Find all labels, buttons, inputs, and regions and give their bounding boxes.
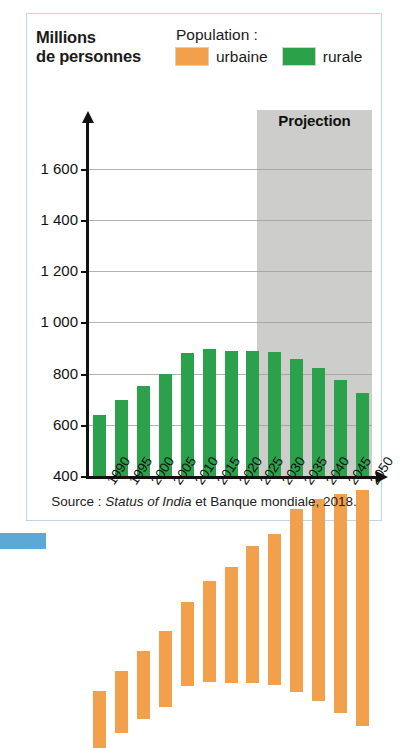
source-caption: Source : Status of India et Banque mondi… xyxy=(27,494,381,509)
chart-figure: Millions de personnes Population : urbai… xyxy=(26,13,382,521)
y-axis-tick-label: 1 600 xyxy=(26,160,78,177)
y-axis-tick-label: 600 xyxy=(26,416,78,433)
bar-segment-urbaine[interactable] xyxy=(159,631,172,707)
y-axis-tick-label: 1 200 xyxy=(26,262,78,279)
legend-label-urbaine: urbaine xyxy=(216,48,268,66)
legend-item-urbaine: urbaine xyxy=(175,47,268,66)
y-axis-tick-label: 800 xyxy=(26,365,78,382)
bar-segment-urbaine[interactable] xyxy=(268,534,281,685)
legend-items: urbaine rurale xyxy=(175,47,377,66)
chart-legend: Population : urbaine rurale xyxy=(175,26,377,66)
plot-area: Projection 4006008001 0001 2001 4001 600… xyxy=(88,143,372,476)
bar-series-container xyxy=(88,143,372,476)
bar-segment-urbaine[interactable] xyxy=(290,509,303,692)
y-axis-tick-labels: 4006008001 0001 2001 4001 600 xyxy=(26,143,78,476)
legend-swatch-urbaine-icon xyxy=(175,47,209,66)
bar-segment-urbaine[interactable] xyxy=(181,602,194,687)
legend-swatch-rurale-icon xyxy=(282,47,316,66)
bar-segment-urbaine[interactable] xyxy=(312,499,325,701)
y-axis-tick-label: 1 400 xyxy=(26,211,78,228)
source-prefix: Source : xyxy=(51,494,105,509)
legend-item-rurale: rurale xyxy=(282,47,363,66)
legend-label-rurale: rurale xyxy=(323,48,363,66)
y-axis-tick-label: 1 000 xyxy=(26,313,78,330)
y-axis-arrow-icon xyxy=(82,111,94,123)
legend-title: Population : xyxy=(176,26,377,44)
bar-segment-urbaine[interactable] xyxy=(93,691,106,747)
axis-title-line-2: de personnes xyxy=(36,47,176,66)
page-corner-tab xyxy=(0,533,46,549)
bar-segment-urbaine[interactable] xyxy=(225,567,238,684)
bar-segment-urbaine[interactable] xyxy=(246,546,259,683)
bar-segment-urbaine[interactable] xyxy=(137,651,150,719)
axis-title: Millions de personnes xyxy=(36,28,176,67)
axis-title-line-1: Millions xyxy=(36,28,176,47)
bar-segment-urbaine[interactable] xyxy=(115,671,128,734)
bar-segment-urbaine[interactable] xyxy=(203,581,216,682)
y-axis-tick-label: 400 xyxy=(26,467,78,484)
source-suffix: et Banque mondiale, 2018. xyxy=(192,494,357,509)
bar-segment-rurale[interactable] xyxy=(93,415,106,476)
projection-label: Projection xyxy=(257,112,372,129)
source-title: Status of India xyxy=(105,494,191,509)
